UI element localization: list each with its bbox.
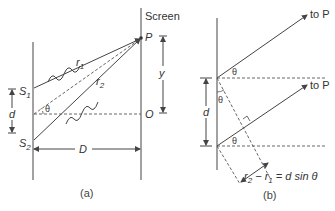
ray-top [217, 15, 307, 78]
point-o-label: O [145, 108, 154, 120]
height-y-label: y [158, 67, 166, 79]
screen-label: Screen [145, 10, 180, 22]
ray-bottom [217, 85, 307, 146]
separation-d-label: d [9, 108, 16, 120]
angle-label: θ [45, 104, 50, 114]
ray-r2 [34, 39, 140, 140]
ray-r1 [34, 39, 140, 88]
angle-bottom-label: θ [232, 136, 237, 146]
caption-a: (a) [80, 187, 93, 199]
angle-mid-label: θ [218, 95, 223, 105]
point-p-label: P [145, 31, 153, 43]
ray-r1-label: r1 [76, 56, 84, 71]
perpendicular-line [217, 78, 270, 178]
separation-d-label-b: d [203, 106, 210, 118]
source-s2-label: S2 [19, 137, 31, 152]
to-p-bottom-label: to P [310, 79, 330, 91]
double-slit-diagram: Screen P r1 r2 θ S1 S2 d O [0, 0, 335, 211]
distance-d-label: D [79, 143, 87, 155]
center-ray [34, 39, 140, 114]
source-s1-label: S1 [19, 85, 31, 100]
to-p-top-label: to P [310, 8, 330, 20]
angle-top-label: θ [232, 67, 237, 77]
diagram-a: Screen P r1 r2 θ S1 S2 d O [8, 8, 180, 199]
path-difference-label: r2 − r1 = d sin θ [244, 170, 318, 185]
caption-b: (b) [263, 189, 276, 201]
diagram-b: to P θ to P θ θ r2 − r1 = d sin θ d (b) [200, 8, 330, 201]
angle-arc [41, 108, 43, 114]
